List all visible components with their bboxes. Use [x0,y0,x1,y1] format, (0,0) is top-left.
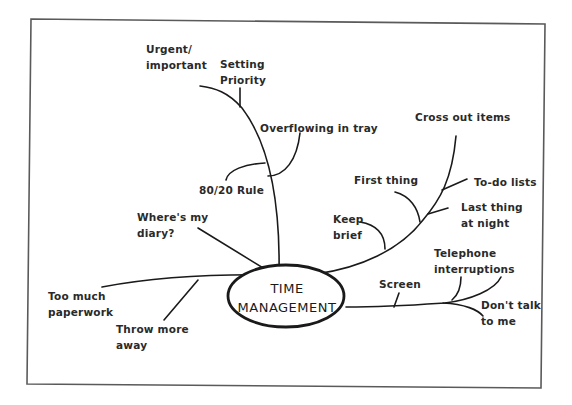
label-cross-out-items: Cross out items [415,109,511,125]
branch-right [346,277,501,307]
twig-first-thing [395,192,420,222]
label-setting-priority: Setting Priority [220,56,266,88]
branch-top [200,86,279,275]
label-urgent-important: Urgent/ important [146,41,207,73]
center-node: TIME MANAGEMENT [228,279,346,317]
center-title-line1: TIME [228,279,346,298]
label-telephone-interruptions: Telephone interruptions [434,245,515,277]
twig-keep-brief [360,222,385,249]
label-throw-more-away: Throw more away [116,321,189,353]
label-last-thing-at-night: Last thing at night [461,199,523,231]
mind-map-canvas: TIME MANAGEMENT Urgent/ important Settin… [0,0,572,405]
label-too-much-paperwork: Too much paperwork [48,288,113,320]
label-keep-brief: Keep brief [333,211,364,243]
label-first-thing: First thing [354,172,418,188]
label-to-do-lists: To-do lists [474,174,537,190]
center-title-line2: MANAGEMENT [228,298,346,317]
label-overflowing-in-tray: Overflowing in tray [260,120,378,136]
twig-dont-talk [443,303,483,316]
twig-throw-away [164,280,198,320]
twig-overflowing [268,133,300,176]
label-dont-talk-to-me: Don't talk to me [481,297,541,329]
twig-80-20 [226,163,265,180]
label-wheres-my-diary: Where's my diary? [137,209,208,241]
label-80-20-rule: 80/20 Rule [199,182,264,198]
twig-screen [394,293,399,307]
twig-telephone [452,277,461,300]
label-screen: Screen [379,276,421,292]
